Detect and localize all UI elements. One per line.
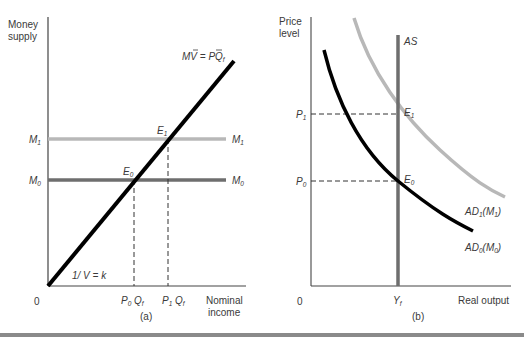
panel-a-e1-label: E1	[157, 125, 168, 137]
panel-b-caption: (b)	[412, 311, 424, 322]
ad1-curve	[354, 18, 505, 197]
footer-rule	[0, 333, 524, 337]
m1-axis-label: M1	[29, 134, 41, 146]
panel-a-e0-label: E0	[123, 166, 134, 178]
panel-a: Money supply Nominal income 0 (a) MV = P…	[8, 17, 246, 322]
tick-p1-qf: P1 Qf	[162, 295, 186, 307]
panel-b: Price level Real output 0 (b) AS P1 P0 E…	[279, 16, 511, 322]
panel-a-xlabel-line1: Nominal	[206, 295, 243, 306]
panel-a-ylabel-line1: Money	[8, 19, 38, 30]
m0-axis-label: M0	[29, 175, 41, 187]
slope-label: 1/ V = k	[72, 270, 107, 281]
panel-b-xlabel: Real output	[458, 295, 509, 306]
panel-b-ylabel-line1: Price	[279, 16, 302, 27]
panel-b-e0-label: E0	[404, 174, 415, 186]
panel-b-e1-label: E1	[404, 107, 415, 119]
yf-label: Yf	[393, 295, 403, 307]
m1-line-label: M1	[232, 134, 244, 146]
ad1-label: AD1(M1)	[464, 206, 501, 218]
mv-pq-line	[48, 61, 234, 286]
ad0-label: AD0(M0)	[464, 242, 501, 254]
panel-b-ylabel-line2: level	[279, 28, 300, 39]
p1-label: P1	[296, 109, 307, 121]
panel-b-origin: 0	[297, 296, 303, 307]
as-label: AS	[403, 36, 418, 47]
tick-p0-qf: P0 Qf	[121, 295, 145, 307]
panel-a-ylabel-line2: supply	[8, 31, 37, 42]
panel-a-origin: 0	[34, 296, 40, 307]
equation-label: MV = PQf	[182, 51, 226, 63]
panel-a-xlabel-line2: income	[208, 307, 241, 318]
figure: Money supply Nominal income 0 (a) MV = P…	[0, 0, 524, 337]
p0-label: P0	[296, 176, 307, 188]
m0-line-label: M0	[232, 175, 244, 187]
panel-a-caption: (a)	[140, 311, 152, 322]
